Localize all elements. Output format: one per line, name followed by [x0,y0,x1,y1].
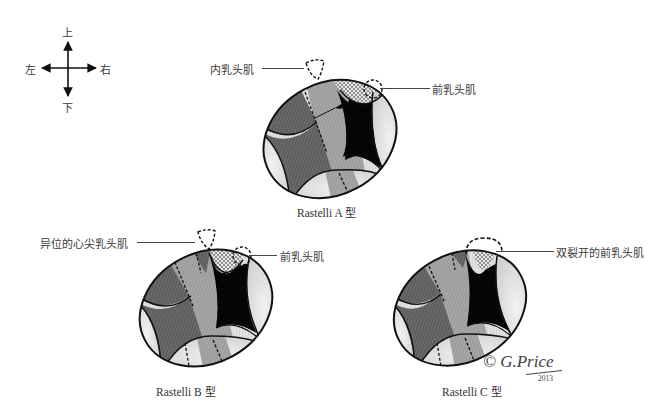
callout-line [137,242,195,243]
compass-down-label: 下 [62,99,73,115]
ectopic-apical-papillary-muscle-marker [193,228,223,258]
callout-line [496,251,554,252]
callout-label-anterior-papillary-b: 前乳头肌 [280,248,324,264]
callout-line [380,88,430,89]
heart-cross-section-b [131,248,281,368]
heart-cross-section-c [385,248,535,368]
diagram-caption-a: Rastelli A 型 [297,204,356,220]
medial-papillary-muscle-marker [300,58,330,88]
callout-label-medial-papillary: 内乳头肌 [210,61,254,77]
bifid-anterior-papillary-muscle-marker [462,232,508,258]
callout-line [249,255,277,256]
diagram-caption-c: Rastelli C 型 [442,383,502,399]
compass-left-label: 左 [25,61,36,77]
anterior-papillary-muscle-marker [360,76,386,102]
diagram-caption-b: Rastelli B 型 [156,383,216,399]
callout-label-ectopic-apical-papillary: 异位的心尖乳头肌 [40,235,128,251]
callout-label-bifid-anterior-papillary: 双裂开的前乳头肌 [556,244,644,260]
compass-up-label: 上 [62,24,73,40]
compass-right-label: 右 [100,61,111,77]
callout-label-anterior-papillary: 前乳头肌 [432,81,476,97]
signature-text: © G.Price [483,352,554,372]
anterior-papillary-muscle-marker-b [229,243,255,269]
signature-year: 2013 [538,374,553,383]
callout-line [262,68,304,69]
